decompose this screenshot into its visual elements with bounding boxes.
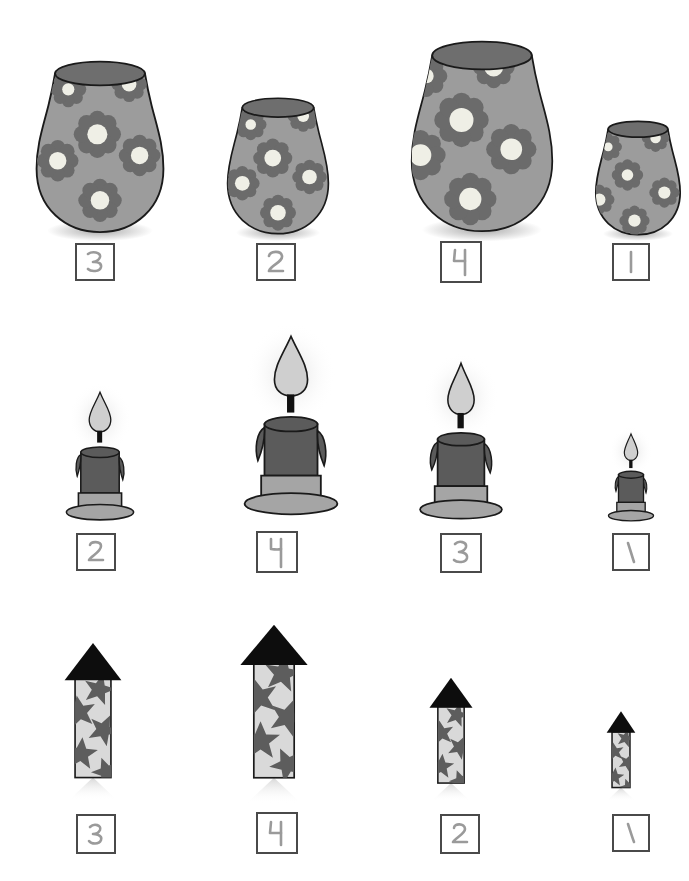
answer-box[interactable]: 4 — [440, 241, 482, 283]
answer-box[interactable]: 3 — [440, 533, 482, 573]
handwritten-digit-3 — [450, 539, 472, 567]
handwritten-digit-4 — [266, 535, 288, 569]
answer-box[interactable]: 4 — [256, 812, 298, 854]
handwritten-digit-2 — [449, 821, 471, 847]
vase-illustration — [594, 117, 682, 240]
handwritten-digit-4 — [450, 247, 472, 277]
handwritten-digit-1 — [623, 820, 639, 846]
answer-box[interactable]: 4 — [256, 531, 298, 573]
answer-box[interactable]: 2 — [256, 243, 296, 281]
answer-box[interactable]: 3 — [76, 814, 116, 854]
answer-box[interactable]: 1 — [612, 243, 650, 281]
answer-box[interactable]: 1 — [612, 533, 650, 571]
candle-illustration — [594, 428, 668, 524]
vase-illustration — [396, 35, 568, 240]
answer-box[interactable]: 2 — [76, 533, 116, 571]
vase-illustration — [30, 55, 170, 240]
rocket-illustration — [423, 673, 479, 801]
row-candles: 2 4 — [0, 300, 689, 590]
worksheet-page: 3 — [0, 0, 689, 881]
handwritten-digit-2 — [85, 539, 107, 565]
answer-box[interactable]: 1 — [612, 814, 650, 852]
answer-box[interactable]: 3 — [75, 243, 115, 281]
answer-box[interactable]: 2 — [440, 814, 480, 854]
handwritten-digit-4 — [266, 818, 288, 848]
candle-illustration — [233, 326, 349, 524]
rocket-illustration — [598, 705, 644, 801]
rocket-illustration — [60, 640, 126, 800]
handwritten-digit-3 — [84, 249, 106, 275]
candle-illustration — [409, 356, 513, 524]
handwritten-digit-1 — [623, 539, 639, 565]
row-rockets: 3 — [0, 590, 689, 881]
handwritten-digit-3 — [85, 821, 107, 847]
rocket-illustration — [232, 623, 316, 803]
candle-illustration — [58, 385, 142, 523]
handwritten-digit-1 — [623, 249, 639, 275]
row-vases: 3 — [0, 0, 689, 300]
handwritten-digit-2 — [265, 249, 287, 275]
vase-illustration — [222, 93, 334, 240]
